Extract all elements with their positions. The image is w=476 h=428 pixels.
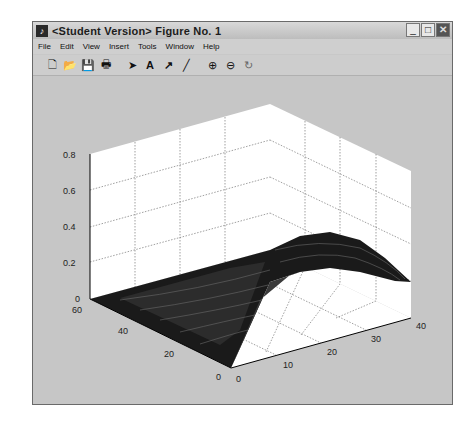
z-tick: 0 (75, 294, 80, 304)
x-tick: 30 (371, 334, 381, 344)
surface-plot[interactable]: 0.8 0.6 0.4 0.2 0 60 40 20 0 0 10 20 30 … (0, 0, 476, 428)
y-tick: 60 (72, 305, 82, 315)
z-tick: 0.6 (63, 186, 76, 196)
x-tick: 0 (236, 374, 241, 384)
z-tick: 0.2 (63, 258, 76, 268)
y-tick: 20 (164, 349, 174, 359)
x-tick: 40 (416, 321, 426, 331)
z-axis-ticks: 0.8 0.6 0.4 0.2 0 (63, 150, 80, 304)
x-tick: 10 (283, 360, 293, 370)
x-tick: 20 (327, 347, 337, 357)
z-tick: 0.8 (63, 150, 76, 160)
y-tick: 0 (216, 372, 221, 382)
y-tick: 40 (118, 326, 128, 336)
z-tick: 0.4 (63, 222, 76, 232)
